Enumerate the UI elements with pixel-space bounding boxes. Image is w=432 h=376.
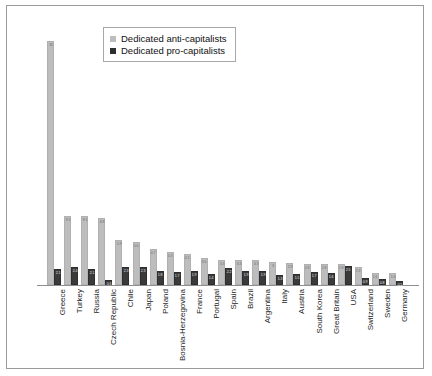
bar-value-label: 1.8 xyxy=(158,273,162,277)
bar-value-label: 4.7 xyxy=(151,251,155,255)
bar-value-label: 0.5 xyxy=(397,283,401,287)
bar-value-label: 1.9 xyxy=(243,273,247,277)
bar-value-label: 1.6 xyxy=(329,275,333,279)
bar-value-label: 1.4 xyxy=(209,276,213,280)
bar-value-label: 1.7 xyxy=(312,274,316,278)
bar-pro-capitalists: 2.5 xyxy=(345,266,352,285)
bar-pro-capitalists: 1.7 xyxy=(174,272,181,285)
category-label: Russia xyxy=(92,289,101,313)
bar-anti-capitalists: 1.6 xyxy=(389,273,396,285)
bar-pro-capitalists: 1.3 xyxy=(276,275,283,285)
category-label: Austria xyxy=(297,289,306,314)
bar-value-label: 1.3 xyxy=(278,277,282,281)
bar-value-label: 1.7 xyxy=(175,274,179,278)
bar-value-label: 5.9 xyxy=(117,242,121,246)
bar-group: 3.31.9 xyxy=(235,6,251,285)
bar-pro-capitalists: 1.4 xyxy=(208,274,215,285)
bar-value-label: 9.1 xyxy=(65,218,69,222)
bar-pro-capitalists: 2.3 xyxy=(140,267,147,285)
bar-group: 9.12.4 xyxy=(64,6,80,285)
bar-value-label: 2.8 xyxy=(322,266,326,270)
bar-anti-capitalists: 4.1 xyxy=(184,254,191,285)
chart-legend: Dedicated anti-capitalists Dedicated pro… xyxy=(103,27,236,62)
bar-pro-capitalists: 1.9 xyxy=(191,271,198,285)
bar-value-label: 0.9 xyxy=(363,280,367,284)
bar-anti-capitalists: 3.3 xyxy=(235,260,242,285)
bar-value-label: 8.8 xyxy=(100,220,104,224)
bar-pro-capitalists: 2.2 xyxy=(225,268,232,285)
category-label: Poland xyxy=(161,289,170,314)
category-label: Spain xyxy=(229,289,238,309)
bar-pro-capitalists: 1.9 xyxy=(242,271,249,285)
bar-value-label: 3 xyxy=(272,264,274,268)
bar-value-label: 2.3 xyxy=(356,269,360,273)
category-label: Sweden xyxy=(383,289,392,318)
bar-anti-capitalists: 2.9 xyxy=(286,263,293,285)
bar-value-label: 2.8 xyxy=(339,266,343,270)
bar-value-label: 2.8 xyxy=(305,266,309,270)
bar-anti-capitalists: 3.3 xyxy=(252,260,259,285)
bar-value-label: 0.8 xyxy=(380,281,384,285)
bar-anti-capitalists: 4.3 xyxy=(167,252,174,285)
bar-value-label: 1.6 xyxy=(390,275,394,279)
bar-group: 2.81.6 xyxy=(321,6,337,285)
bar-group: 2.30.9 xyxy=(355,6,371,285)
bar-pro-capitalists: 2.1 xyxy=(54,269,61,285)
bar-group: 31.3 xyxy=(269,6,285,285)
legend-label-pro-capitalists: Dedicated pro-capitalists xyxy=(121,45,225,56)
bar-group: 322.1 xyxy=(47,6,63,285)
category-label: Portugal xyxy=(212,289,221,319)
bar-value-label: 4.3 xyxy=(168,254,172,258)
bar-value-label: 3.3 xyxy=(236,262,240,266)
category-label: Greece xyxy=(58,289,67,315)
bar-group: 1.60.8 xyxy=(372,6,388,285)
bar-value-label: 1.6 xyxy=(373,275,377,279)
bar-anti-capitalists: 5.9 xyxy=(115,240,122,285)
category-label: Italy xyxy=(280,289,289,304)
bar-anti-capitalists: 3 xyxy=(269,262,276,285)
bar-group: 9.12.1 xyxy=(81,6,97,285)
legend-label-anti-capitalists: Dedicated anti-capitalists xyxy=(121,33,227,44)
bar-value-label: 4.1 xyxy=(185,256,189,260)
legend-item-anti-capitalists: Dedicated anti-capitalists xyxy=(110,33,227,44)
bar-value-label: 2.3 xyxy=(141,269,145,273)
bar-pro-capitalists: 0.5 xyxy=(396,281,403,285)
bar-value-label: 3.6 xyxy=(202,260,206,264)
x-axis-baseline xyxy=(37,285,419,286)
category-label: Japan xyxy=(144,289,153,311)
bar-pro-capitalists: 1.6 xyxy=(328,273,335,285)
bar-value-label: 2.2 xyxy=(226,270,230,274)
bar-value-label: 2.4 xyxy=(72,269,76,273)
bar-value-label: 2.1 xyxy=(89,271,93,275)
bar-value-label: 0.6 xyxy=(107,282,111,286)
bar-value-label: 2.5 xyxy=(346,268,350,272)
bar-anti-capitalists: 2.8 xyxy=(304,264,311,285)
bar-value-label: 1.5 xyxy=(295,276,299,280)
bar-anti-capitalists: 2.8 xyxy=(338,264,345,285)
bar-pro-capitalists: 2.3 xyxy=(122,267,129,285)
category-label: France xyxy=(195,289,204,314)
bar-value-label: 9.1 xyxy=(82,218,86,222)
bar-pro-capitalists: 2.1 xyxy=(88,269,95,285)
bar-anti-capitalists: 4.7 xyxy=(150,249,157,285)
bar-anti-capitalists: 2.8 xyxy=(321,264,328,285)
bar-value-label: 2.1 xyxy=(55,271,59,275)
bar-pro-capitalists: 1.7 xyxy=(311,272,318,285)
bar-group: 3.31.9 xyxy=(252,6,268,285)
bar-group: 2.82.5 xyxy=(338,6,354,285)
bar-value-label: 2.9 xyxy=(288,265,292,269)
square-swatch-icon xyxy=(110,48,116,54)
bar-value-label: 1.9 xyxy=(192,273,196,277)
bar-value-label: 5.6 xyxy=(134,244,138,248)
category-label: Germany xyxy=(400,289,409,322)
bar-group: 1.60.5 xyxy=(389,6,405,285)
bar-pro-capitalists: 0.8 xyxy=(379,279,386,285)
category-label: Chile xyxy=(126,289,135,307)
bar-anti-capitalists: 1.6 xyxy=(372,273,379,285)
category-label: South Korea xyxy=(315,289,324,333)
bar-anti-capitalists: 3.3 xyxy=(218,260,225,285)
bar-anti-capitalists: 2.3 xyxy=(355,267,362,285)
bar-pro-capitalists: 1.9 xyxy=(259,271,266,285)
bar-pro-capitalists: 1.5 xyxy=(293,274,300,285)
bar-anti-capitalists: 9.1 xyxy=(81,216,88,285)
